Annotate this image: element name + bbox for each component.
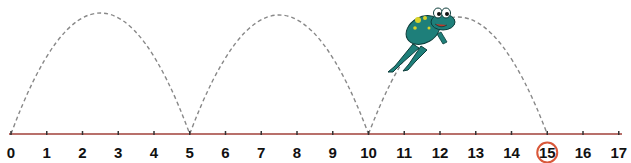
tick-label: 5	[186, 144, 194, 161]
tick-label: 12	[432, 144, 449, 161]
tick-label: 3	[114, 144, 122, 161]
tick-label: 8	[293, 144, 301, 161]
tick-label: 4	[150, 144, 159, 161]
jump-arc	[190, 15, 369, 134]
tick-label: 1	[43, 144, 51, 161]
frog-icon	[388, 8, 455, 72]
tick-label: 2	[78, 144, 86, 161]
jump-arc	[11, 13, 190, 134]
jump-arc	[369, 17, 548, 134]
tick-label: 15	[539, 144, 556, 161]
tick-label: 7	[257, 144, 265, 161]
tick-labels: 01234567891011121314151617	[7, 143, 627, 163]
tick-label: 9	[329, 144, 337, 161]
tick-label: 16	[575, 144, 592, 161]
tick-label: 13	[467, 144, 484, 161]
tick-label: 17	[610, 144, 627, 161]
tick-label: 10	[360, 144, 377, 161]
tick-label: 11	[396, 144, 412, 161]
number-line-diagram: 01234567891011121314151617	[0, 0, 631, 163]
tick-label: 6	[221, 144, 229, 161]
tick-label: 14	[503, 144, 520, 161]
jump-arcs	[11, 13, 547, 134]
tick-label: 0	[7, 144, 15, 161]
